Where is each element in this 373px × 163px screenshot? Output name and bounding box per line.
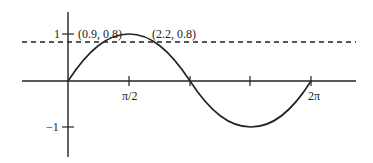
point-label-2: (2.2, 0.8) [152,27,196,41]
sine-graph: (0.9, 0.8) (2.2, 0.8) π/2 2π 1 −1 [0,0,373,163]
y-tick-label-1: 1 [54,27,60,41]
x-tick-label-pi-half: π/2 [122,89,137,103]
x-tick-label-2pi: 2π [308,89,320,103]
y-tick-label-minus-1: −1 [46,120,59,134]
point-label-1: (0.9, 0.8) [78,27,122,41]
